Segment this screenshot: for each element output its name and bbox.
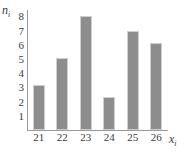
y-tick-label: 5 [12, 54, 24, 65]
y-axis-label: ni [2, 4, 10, 19]
y-tick-label: 3 [12, 82, 24, 93]
y-axis-label-subscript: i [8, 10, 10, 19]
y-axis-ticks: 87654321 [12, 0, 24, 131]
x-tick-label: 24 [98, 132, 122, 143]
bar [56, 58, 68, 130]
bar [80, 16, 92, 130]
bar [103, 97, 115, 130]
x-axis-label-subscript: i [174, 139, 176, 148]
x-tick-label: 22 [51, 132, 75, 143]
x-axis-line [27, 130, 168, 131]
y-tick-label: 7 [12, 26, 24, 37]
x-tick-label: 25 [121, 132, 145, 143]
plot-area [27, 10, 168, 130]
x-axis-ticks: 212223242526 [27, 132, 168, 148]
x-tick-label: 21 [27, 132, 51, 143]
bar-chart-figure: ni 87654321 212223242526 xi [0, 0, 185, 154]
x-axis-label: xi [169, 133, 177, 148]
y-tick-label: 6 [12, 40, 24, 51]
y-tick-label: 1 [12, 111, 24, 122]
bar [33, 85, 45, 130]
y-tick-label: 4 [12, 68, 24, 79]
y-tick-label: 2 [12, 97, 24, 108]
x-tick-label: 26 [145, 132, 169, 143]
x-tick-label: 23 [74, 132, 98, 143]
bar [150, 43, 162, 130]
bar [127, 31, 139, 130]
y-tick-label: 8 [12, 11, 24, 22]
